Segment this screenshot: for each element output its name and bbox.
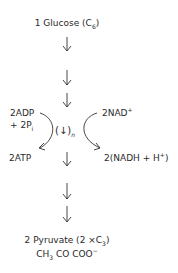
adp-label: 2ADP xyxy=(10,108,34,118)
pyruvate-label: 2 Pyruvate (2 ×C3) xyxy=(22,235,112,245)
down-arrow-icon xyxy=(63,206,71,222)
pyruvate-formula: CH3 CO COO− xyxy=(22,249,112,259)
pi-label: + 2Pi xyxy=(10,120,33,130)
down-arrow-icon xyxy=(63,93,71,107)
down-arrow-icon xyxy=(63,70,71,85)
nad-label: 2NAD+ xyxy=(102,108,133,118)
glucose-label: 1 Glucose (C6) xyxy=(30,18,104,28)
down-arrow-icon xyxy=(63,183,71,199)
down-arrow-icon xyxy=(63,152,71,166)
nadh-label: 2(NADH + H+) xyxy=(104,153,168,163)
center-repeat-label: (↓)n xyxy=(55,126,75,136)
diagram-arrows xyxy=(0,0,178,273)
curved-arrow-right-icon xyxy=(84,113,100,150)
down-arrow-icon xyxy=(63,37,71,51)
atp-label: 2ATP xyxy=(9,153,31,163)
curved-arrow-left-icon xyxy=(39,113,53,150)
